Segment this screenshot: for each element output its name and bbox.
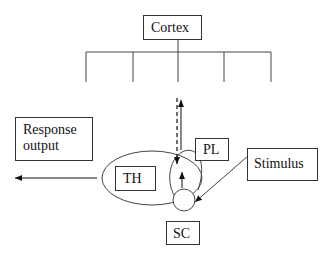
arrow-stimulus-to-sc [195, 156, 248, 202]
sc-label: SC [173, 226, 190, 241]
response-output-label-line2: output [23, 138, 92, 154]
pl-label: PL [203, 142, 219, 157]
response-output-box: Response output [15, 117, 93, 161]
stimulus-box: Stimulus [247, 148, 318, 181]
th-label: TH [123, 171, 142, 186]
cortex-label: Cortex [151, 20, 189, 35]
sc-circle [173, 189, 195, 211]
response-output-label-line1: Response [23, 122, 92, 138]
stimulus-label: Stimulus [254, 156, 304, 171]
cortex-box: Cortex [143, 15, 202, 40]
cortex-branches [86, 40, 271, 82]
pl-box: PL [195, 138, 229, 161]
th-box: TH [115, 166, 156, 191]
sc-box: SC [166, 221, 200, 245]
